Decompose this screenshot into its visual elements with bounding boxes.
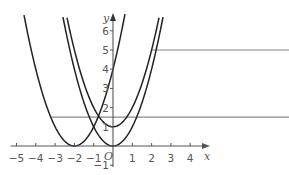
x-tick-label: 2 — [148, 152, 155, 164]
x-axis-label: x — [204, 150, 211, 163]
ticks: xyO−5−4−3−2−11234−1123456 — [9, 12, 211, 171]
y-tick-label: 6 — [102, 25, 109, 37]
x-tick-label: −2 — [67, 152, 82, 164]
y-tick-label: 4 — [102, 63, 109, 75]
horizontal-lines — [51, 50, 289, 117]
x-axis-arrow-icon — [202, 143, 210, 149]
y-tick-label: 3 — [102, 82, 109, 94]
x-tick-label: 3 — [168, 152, 175, 164]
x-tick-label: 4 — [187, 152, 194, 164]
y-axis-arrow-icon — [110, 13, 116, 21]
x-tick-label: −5 — [9, 152, 24, 164]
y-tick-label: −1 — [94, 159, 109, 171]
x-tick-label: −4 — [28, 152, 44, 164]
y-tick-label: 5 — [102, 44, 109, 56]
y-tick-label: 2 — [102, 102, 109, 114]
y-tick-label: 1 — [102, 121, 109, 133]
chart-canvas: xyO−5−4−3−2−11234−1123456 — [0, 0, 289, 175]
axes — [11, 13, 210, 167]
x-tick-label: −3 — [47, 152, 62, 164]
curves — [24, 14, 163, 146]
x-tick-label: 1 — [129, 152, 136, 164]
parabola-chart: xyO−5−4−3−2−11234−1123456 — [0, 0, 289, 175]
y-axis-label: y — [102, 12, 110, 25]
